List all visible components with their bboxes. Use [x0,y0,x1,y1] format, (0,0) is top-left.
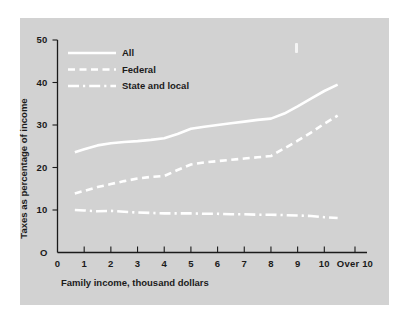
legend-label-federal: Federal [122,64,156,75]
x-axis-tick-label: 4 [151,258,177,269]
chart-series-group [75,85,338,218]
y-axis-title: Taxes as percentage of income [18,89,29,249]
x-axis-tick-label: 6 [205,258,231,269]
y-axis-tick-label: 50 [24,34,48,45]
x-axis-title: Family income, thousand dollars [61,277,209,288]
x-axis-tick-label: 3 [125,258,151,269]
x-axis-ticks [84,247,355,253]
chart-plot-area [0,0,402,323]
x-axis-tick-label: 0 [45,258,71,269]
x-axis-tick-label: 8 [258,258,284,269]
series-line-state-and-local [75,210,338,218]
x-axis-tick-label: 7 [231,258,257,269]
x-axis-tick-label: 1 [71,258,97,269]
x-axis-tick-label: 2 [98,258,124,269]
y-axis-ticks [53,40,58,210]
x-axis-tick-label: 5 [178,258,204,269]
x-axis-tick-label: Over 10 [329,258,381,269]
series-line-all [75,85,338,153]
y-axis-tick-label: 40 [24,77,48,88]
chart-figure: O1020304050012345678910Over 10 Family in… [0,0,402,323]
x-axis-tick-label: 9 [285,258,311,269]
legend-sample-lines [68,53,116,86]
legend-label-all: All [122,47,134,58]
stray-ink-artifact [295,43,298,53]
legend-label-state-and-local: State and local [122,80,189,91]
